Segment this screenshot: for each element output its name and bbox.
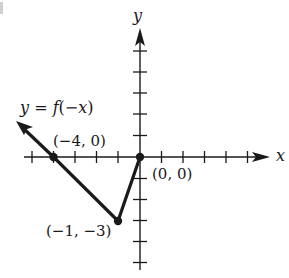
point-label-neg4-0: (−4, 0) <box>53 134 106 149</box>
point-label-neg1-neg3: (−1, −3) <box>46 224 111 239</box>
x-axis <box>24 151 270 163</box>
coordinate-plane <box>0 0 289 278</box>
point-neg1-neg3 <box>114 217 122 225</box>
point-label-origin: (0, 0) <box>152 167 192 182</box>
point-origin <box>136 153 144 161</box>
function-label: y = f(−x) <box>20 100 93 116</box>
x-axis-label: x <box>276 148 285 164</box>
graph-figure: y x y = f(−x) (−4, 0) (0, 0) (−1, −3) <box>0 0 289 278</box>
point-neg4-0 <box>49 153 57 161</box>
y-axis <box>133 28 147 270</box>
y-axis-label: y <box>133 8 142 24</box>
